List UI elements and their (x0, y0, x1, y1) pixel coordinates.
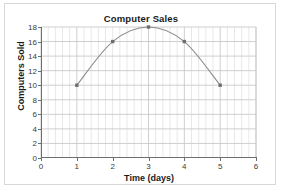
chart-title: Computer Sales (5, 13, 277, 24)
plot-area (41, 27, 256, 158)
y-axis-tick-mark (38, 27, 41, 28)
y-axis-tick-mark (38, 143, 41, 144)
x-axis-title: Time (days) (41, 173, 257, 183)
x-axis-tick-mark (113, 158, 114, 161)
y-axis-tick-label: 2 (15, 139, 37, 148)
x-axis-tick-mark (77, 158, 78, 161)
y-axis-title: Computers Sold (16, 16, 26, 136)
x-axis-tick-mark (149, 158, 150, 161)
y-axis-tick-mark (38, 85, 41, 86)
x-axis-tick-label: 6 (246, 162, 266, 171)
y-axis-tick-mark (38, 56, 41, 57)
x-axis-tick-label: 3 (139, 162, 159, 171)
x-axis-tick-label: 2 (103, 162, 123, 171)
x-axis-tick-label: 1 (67, 162, 87, 171)
y-axis-line (41, 27, 42, 158)
x-axis-tick-mark (256, 158, 257, 161)
x-axis-tick-mark (41, 158, 42, 161)
x-axis-tick-mark (184, 158, 185, 161)
x-axis-tick-label: 4 (174, 162, 194, 171)
y-axis-tick-mark (38, 100, 41, 101)
x-axis-tick-mark (220, 158, 221, 161)
x-axis-tick-label: 0 (31, 162, 51, 171)
y-axis-tick-mark (38, 71, 41, 72)
y-axis-tick-mark (38, 114, 41, 115)
x-axis-tick-label: 5 (210, 162, 230, 171)
chart-series-curve (41, 27, 256, 158)
y-axis-tick-mark (38, 42, 41, 43)
y-axis-tick-mark (38, 129, 41, 130)
chart-figure: Computer Sales 024681012141618 0123456 C… (4, 3, 276, 185)
